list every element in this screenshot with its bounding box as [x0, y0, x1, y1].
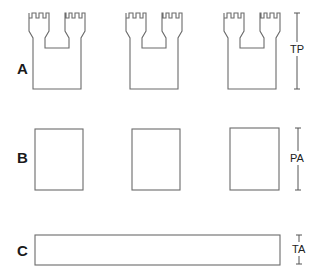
row-label-c: C — [17, 242, 28, 259]
rectangle-shape — [132, 129, 180, 190]
rectangle-shape — [35, 129, 83, 190]
row-label-b: B — [17, 149, 28, 166]
row-a-towers — [29, 13, 280, 89]
dimension-label-tp: TP — [290, 42, 304, 56]
dimension-label-pa: PA — [290, 151, 304, 165]
bar-shape — [35, 235, 280, 265]
tower-shape — [126, 13, 182, 89]
diagram-canvas — [0, 0, 320, 275]
dimension-label-ta: TA — [292, 242, 305, 256]
row-label-a: A — [17, 60, 28, 77]
row-c-bar — [35, 235, 280, 265]
rectangle-shape — [230, 128, 279, 190]
row-b-rectangles — [35, 128, 279, 190]
tower-shape — [29, 13, 85, 89]
tower-shape — [224, 13, 280, 89]
